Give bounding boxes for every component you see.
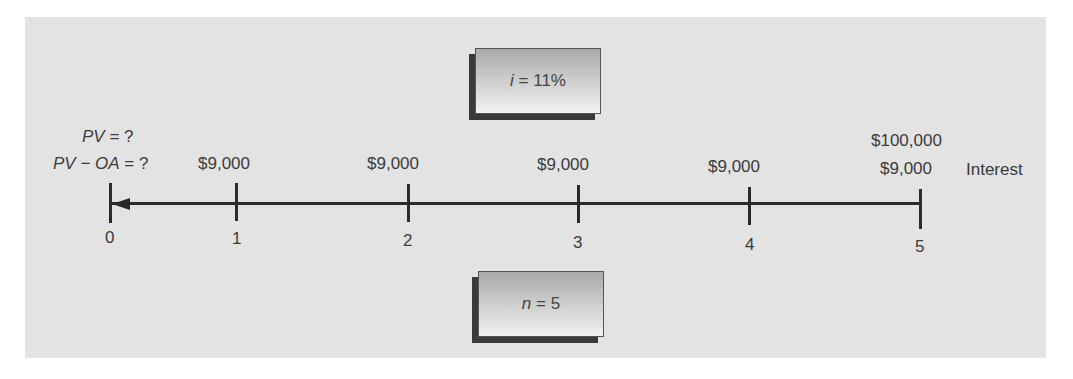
cash-flow-2: $9,000 xyxy=(367,154,419,174)
tick-2 xyxy=(407,184,410,222)
tick-label-2: 2 xyxy=(403,231,412,251)
timeline-axis xyxy=(112,202,921,205)
tick-label-0: 0 xyxy=(105,228,114,248)
interest-rate-eq: = xyxy=(514,71,533,91)
periods-box: n = 5 xyxy=(478,271,604,337)
tick-5 xyxy=(919,189,922,229)
tick-3 xyxy=(577,185,580,223)
pv-oa-minus: − xyxy=(76,154,95,173)
tick-label-5: 5 xyxy=(915,237,924,257)
interest-label: Interest xyxy=(966,160,1023,180)
principal-label: $100,000 xyxy=(871,131,942,151)
interest-rate-box: i = 11% xyxy=(475,48,601,114)
tick-label-1: 1 xyxy=(232,229,241,249)
periods-value: 5 xyxy=(551,294,560,314)
arrowhead-icon xyxy=(112,198,130,210)
periods-eq: = xyxy=(531,294,550,314)
pv-oa-var-b: OA xyxy=(95,154,120,173)
tick-0 xyxy=(109,183,112,223)
tick-label-4: 4 xyxy=(745,235,754,255)
tick-4 xyxy=(748,187,751,225)
cash-flow-4: $9,000 xyxy=(708,157,760,177)
pv-oa-unknown-label: PV − OA = ? xyxy=(53,154,148,174)
tick-1 xyxy=(235,183,238,221)
cash-flow-3: $9,000 xyxy=(537,155,589,175)
tick-label-3: 3 xyxy=(573,233,582,253)
pv-oa-var-a: PV xyxy=(53,154,76,173)
pv-eq: = ? xyxy=(105,127,134,146)
pv-unknown-label: PV = ? xyxy=(82,127,134,147)
cash-flow-1: $9,000 xyxy=(198,154,250,174)
periods-var: n xyxy=(522,294,531,314)
interest-rate-value: 11% xyxy=(533,71,566,91)
pv-oa-eq: = ? xyxy=(120,154,149,173)
pv-var: PV xyxy=(82,127,105,146)
cash-flow-5: $9,000 xyxy=(880,159,932,179)
